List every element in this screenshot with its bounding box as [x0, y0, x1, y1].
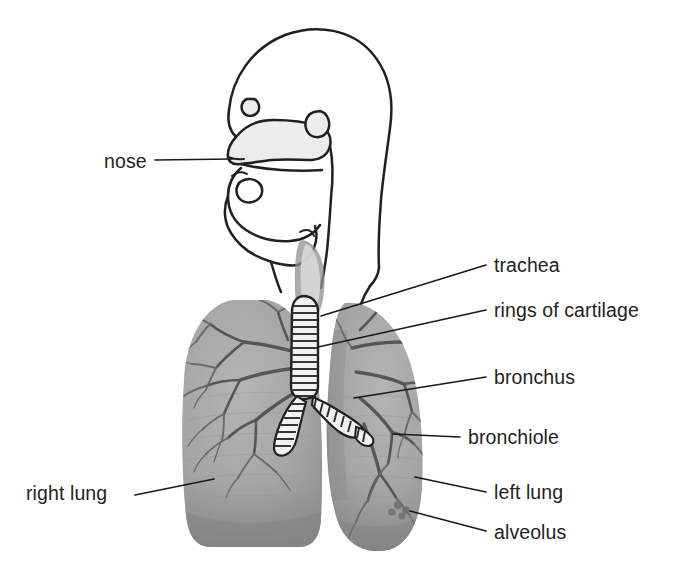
- trachea: [291, 296, 318, 399]
- respiratory-system-diagram: nose trachea rings of cartilage bronchus…: [0, 0, 677, 581]
- label-rings-of-cartilage: rings of cartilage: [494, 299, 639, 321]
- label-trachea: trachea: [494, 254, 560, 276]
- diagram-canvas: nose trachea rings of cartilage bronchus…: [0, 0, 677, 581]
- label-bronchiole: bronchiole: [468, 426, 559, 448]
- leader-nose: [155, 159, 232, 160]
- leader-left-lung: [415, 477, 486, 492]
- leader-alveolus: [410, 511, 486, 531]
- leader-trachea: [321, 265, 486, 316]
- label-bronchus: bronchus: [494, 366, 575, 388]
- label-right-lung: right lung: [26, 482, 107, 504]
- label-nose: nose: [104, 150, 147, 172]
- label-left-lung: left lung: [494, 481, 563, 503]
- label-alveolus: alveolus: [494, 521, 566, 543]
